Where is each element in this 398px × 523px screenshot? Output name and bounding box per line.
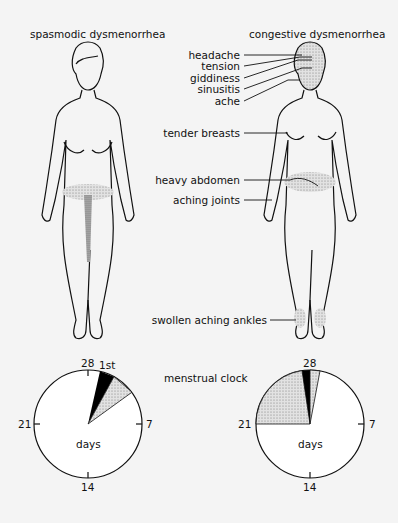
right-tick-7: 7 (369, 418, 376, 430)
left-tick-28: 28 (81, 357, 94, 369)
right-days-label: days (298, 438, 323, 450)
label-ache: ache (215, 95, 240, 107)
right-tick-21: 21 (238, 418, 251, 430)
right-tick-14: 14 (303, 481, 316, 493)
left-tick-21: 21 (18, 418, 31, 430)
label-tension: tension (201, 60, 240, 72)
left-tick-7: 7 (146, 418, 153, 430)
right-tick-28: 28 (303, 357, 316, 369)
left-marker-1st: 1st (99, 359, 115, 371)
label-tender-breasts: tender breasts (163, 127, 240, 139)
label-sinusitis: sinusitis (197, 83, 240, 95)
left-pelvic-shading (62, 184, 114, 262)
left-menstrual-clock (34, 370, 142, 478)
label-swollen-ankles: swollen aching ankles (152, 314, 267, 326)
label-aching-joints: aching joints (173, 194, 240, 206)
title-congestive: congestive dysmenorrhea (249, 28, 385, 40)
label-heavy-abdomen: heavy abdomen (155, 174, 240, 186)
menstrual-clock-label: menstrual clock (164, 372, 248, 384)
left-tick-14: 14 (81, 481, 94, 493)
right-menstrual-clock (256, 370, 364, 478)
title-spasmodic: spasmodic dysmenorrhea (30, 28, 165, 40)
left-days-label: days (76, 438, 101, 450)
